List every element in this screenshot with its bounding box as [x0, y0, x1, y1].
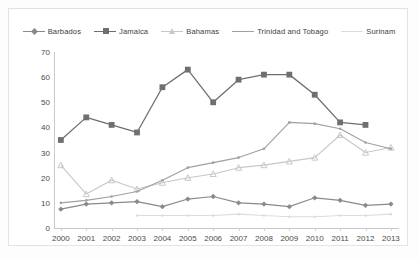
data-point-marker [313, 215, 316, 218]
data-point-marker [237, 213, 240, 216]
data-point-marker [161, 179, 164, 182]
data-point-marker [261, 72, 267, 78]
series-jamaica [58, 67, 368, 143]
data-point-marker [337, 120, 343, 126]
data-point-marker [85, 199, 88, 202]
data-point-marker [313, 122, 316, 125]
data-point-marker [261, 201, 266, 206]
data-point-marker [58, 162, 64, 168]
data-point-marker [58, 137, 64, 143]
data-point-marker [388, 201, 393, 206]
data-point-marker [212, 214, 215, 217]
data-point-marker [210, 99, 216, 105]
data-point-marker [84, 201, 89, 206]
data-point-marker [134, 130, 140, 136]
data-point-marker [210, 194, 215, 199]
series-bahamas [58, 132, 394, 197]
data-point-marker [390, 213, 393, 216]
data-point-marker [134, 199, 139, 204]
data-point-marker [110, 195, 113, 198]
data-point-marker [186, 166, 189, 169]
data-point-marker [287, 204, 292, 209]
series-plot [8, 8, 408, 246]
data-point-marker [161, 214, 164, 217]
data-point-marker [136, 190, 139, 193]
data-point-marker [339, 214, 342, 217]
data-point-marker [363, 203, 368, 208]
data-point-marker [364, 214, 367, 217]
series-surinam [136, 213, 392, 218]
data-point-marker [109, 200, 114, 205]
data-point-marker [363, 122, 369, 128]
data-point-marker [212, 161, 215, 164]
series-trinidad-and-tobago [60, 121, 393, 204]
data-point-marker [236, 200, 241, 205]
data-point-marker [312, 92, 318, 98]
data-point-marker [364, 141, 367, 144]
data-point-marker [312, 195, 317, 200]
data-point-marker [186, 214, 189, 217]
line-chart-figure: BarbadosJamaicaBahamasTrinidad and Tobag… [0, 0, 418, 261]
data-point-marker [136, 214, 139, 217]
data-point-marker [160, 84, 166, 90]
data-point-marker [288, 121, 291, 124]
data-point-marker [286, 72, 292, 78]
series-line [61, 135, 391, 194]
data-point-marker [390, 148, 393, 151]
data-point-marker [337, 198, 342, 203]
data-point-marker [263, 214, 266, 217]
data-point-marker [237, 156, 240, 159]
data-point-marker [263, 148, 266, 151]
data-point-marker [236, 77, 242, 83]
data-point-marker [83, 114, 89, 120]
data-point-marker [60, 202, 63, 205]
data-point-marker [109, 122, 115, 128]
data-point-marker [185, 67, 191, 73]
data-point-marker [339, 127, 342, 130]
data-point-marker [288, 215, 291, 218]
data-point-marker [185, 196, 190, 201]
data-point-marker [58, 206, 63, 211]
plot-wrapper: 010203040506070 200020012002200320042005… [8, 8, 408, 246]
data-point-marker [160, 204, 165, 209]
